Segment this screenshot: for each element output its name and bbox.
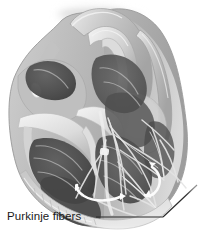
heart-illustration (0, 0, 200, 238)
figure-root: Purkinje fibers (0, 0, 200, 238)
